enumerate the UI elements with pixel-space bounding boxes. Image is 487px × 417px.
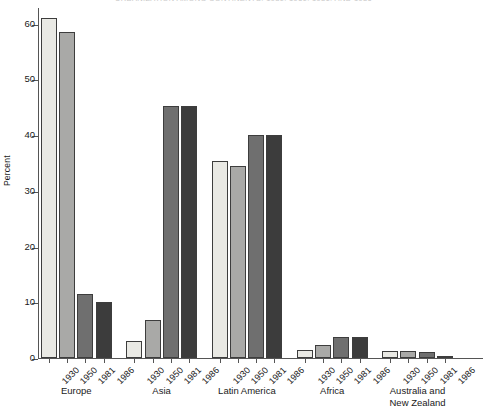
- x-tick-label: 1981: [267, 365, 288, 386]
- x-tick-mark: [171, 359, 172, 363]
- x-tick-mark: [360, 359, 361, 363]
- x-tick-mark: [390, 359, 391, 363]
- x-tick-mark: [238, 359, 239, 363]
- bar: [352, 337, 368, 358]
- y-tick-label: 0: [30, 352, 35, 363]
- y-tick-label: 50: [24, 73, 35, 84]
- x-tick-mark: [67, 359, 68, 363]
- x-tick-mark: [445, 359, 446, 363]
- x-tick-label: 1986: [370, 365, 391, 386]
- y-axis-line: [38, 8, 39, 359]
- x-tick-mark: [408, 359, 409, 363]
- bar: [181, 106, 197, 358]
- x-tick-label: 1950: [163, 365, 184, 386]
- x-tick-label: 1981: [437, 365, 458, 386]
- group-label: Asia: [152, 385, 170, 397]
- bar: [212, 161, 228, 358]
- bar: [96, 302, 112, 358]
- x-tick-label: 1930: [401, 365, 422, 386]
- bar-chart-figure: URBANIZATION AMONG CONTINENTS: 1930, 195…: [0, 0, 487, 417]
- bar: [419, 352, 435, 358]
- x-tick-label: 1986: [456, 365, 477, 386]
- x-tick-label: 1986: [285, 365, 306, 386]
- x-tick-label: 1950: [334, 365, 355, 386]
- x-tick-label: 1981: [182, 365, 203, 386]
- x-tick-mark: [153, 359, 154, 363]
- x-tick-mark: [305, 359, 306, 363]
- x-tick-mark: [49, 359, 50, 363]
- y-tick-label: 10: [24, 296, 35, 307]
- chart-title: URBANIZATION AMONG CONTINENTS: 1930, 195…: [0, 0, 487, 1]
- bar: [266, 135, 282, 358]
- y-tick-label: 40: [24, 129, 35, 140]
- x-tick-label: 1986: [114, 365, 135, 386]
- x-tick-label: 1930: [230, 365, 251, 386]
- y-tick-label: 30: [24, 185, 35, 196]
- x-tick-label: 1981: [96, 365, 117, 386]
- y-axis-title: Percent: [2, 155, 12, 186]
- x-tick-label: 1930: [60, 365, 81, 386]
- y-tick-label: 60: [24, 18, 35, 29]
- x-tick-mark: [189, 359, 190, 363]
- x-tick-label: 1950: [419, 365, 440, 386]
- x-tick-label: 1950: [249, 365, 270, 386]
- bar: [333, 337, 349, 358]
- x-tick-mark: [427, 359, 428, 363]
- bar: [400, 351, 416, 358]
- x-tick-label: 1950: [78, 365, 99, 386]
- x-tick-mark: [220, 359, 221, 363]
- group-label: Africa: [320, 385, 344, 397]
- group-label: Latin America: [218, 385, 276, 397]
- y-tick-label: 20: [24, 241, 35, 252]
- bar: [163, 106, 179, 358]
- x-tick-mark: [256, 359, 257, 363]
- bar: [382, 351, 398, 358]
- bar: [41, 18, 57, 358]
- x-tick-label: 1930: [145, 365, 166, 386]
- x-tick-mark: [274, 359, 275, 363]
- group-labels: EuropeAsiaLatin AmericaAfricaAustralia a…: [38, 385, 483, 417]
- bar: [145, 320, 161, 358]
- group-label: Europe: [61, 385, 92, 397]
- group-label: Australia and New Zealand: [390, 385, 446, 409]
- bar: [77, 294, 93, 358]
- plot-area: 0102030405060: [38, 8, 483, 359]
- x-tick-label: 1981: [352, 365, 373, 386]
- x-tick-mark: [85, 359, 86, 363]
- x-tick-mark: [341, 359, 342, 363]
- x-tick-mark: [104, 359, 105, 363]
- bar: [59, 32, 75, 358]
- bar: [126, 341, 142, 358]
- x-tick-mark: [134, 359, 135, 363]
- x-tick-mark: [323, 359, 324, 363]
- bar: [230, 166, 246, 358]
- bar: [297, 350, 313, 358]
- x-tick-label: 1986: [200, 365, 221, 386]
- bar: [248, 135, 264, 358]
- x-tick-label: 1930: [316, 365, 337, 386]
- bar: [437, 356, 453, 358]
- bar: [315, 345, 331, 358]
